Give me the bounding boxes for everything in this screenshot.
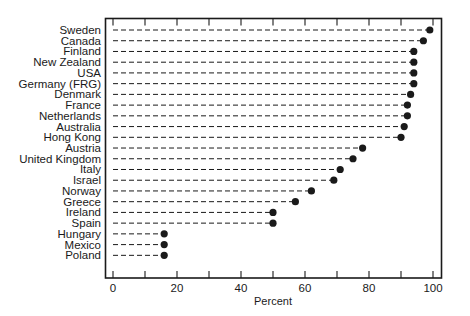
data-point: [292, 198, 299, 205]
category-label: Poland: [65, 249, 101, 261]
data-point: [404, 112, 411, 119]
data-row: Australia: [56, 121, 408, 133]
x-axis-title: Percent: [254, 295, 292, 307]
x-tick-label: 40: [235, 282, 248, 294]
data-point: [410, 80, 417, 87]
data-row: United Kingdom: [19, 153, 356, 165]
data-row: Poland: [65, 249, 168, 261]
data-point: [161, 252, 168, 259]
data-point: [410, 69, 417, 76]
x-tick-label: 20: [171, 282, 184, 294]
data-point: [397, 134, 404, 141]
data-point: [308, 187, 315, 194]
data-point: [337, 166, 344, 173]
data-point: [161, 230, 168, 237]
data-point: [269, 209, 276, 216]
data-point: [269, 220, 276, 227]
x-tick-label: 100: [423, 282, 442, 294]
x-tick-label: 60: [299, 282, 312, 294]
data-point: [404, 102, 411, 109]
dot-chart: 020406080100 SwedenCanadaFinlandNew Zeal…: [0, 0, 470, 316]
x-axis-tick-labels: 020406080100: [110, 282, 443, 294]
data-point: [161, 241, 168, 248]
data-point: [401, 123, 408, 130]
data-row: Finland: [63, 45, 417, 57]
data-row: Sweden: [59, 24, 433, 36]
x-tick-label: 0: [110, 282, 116, 294]
data-point: [426, 26, 433, 33]
data-row: Canada: [61, 35, 427, 47]
data-row: Italy: [80, 163, 344, 175]
data-rows: SwedenCanadaFinlandNew ZealandUSAGermany…: [19, 24, 434, 261]
data-point: [410, 59, 417, 66]
data-row: USA: [77, 67, 417, 79]
data-row: Austria: [65, 142, 366, 154]
data-point: [420, 37, 427, 44]
data-row: Spain: [72, 217, 277, 229]
data-row: France: [65, 99, 411, 111]
x-tick-label: 80: [363, 282, 376, 294]
data-point: [410, 48, 417, 55]
data-point: [359, 144, 366, 151]
data-row: Israel: [73, 174, 338, 186]
data-point: [349, 155, 356, 162]
data-point: [330, 177, 337, 184]
data-point: [407, 91, 414, 98]
data-row: Denmark: [54, 88, 414, 100]
